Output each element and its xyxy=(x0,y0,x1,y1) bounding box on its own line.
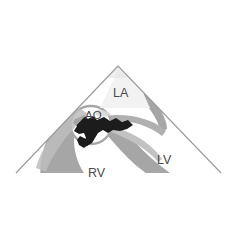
label-la: LA xyxy=(113,86,129,100)
label-lv: LV xyxy=(157,153,172,167)
label-ao: AO xyxy=(85,109,102,121)
label-rv: RV xyxy=(88,166,106,180)
echo-sector-figure: LA AO RV LV xyxy=(0,0,243,226)
sector-background xyxy=(0,0,243,226)
sector-interior xyxy=(0,0,243,226)
posterior-wall-faint xyxy=(120,198,243,226)
echo-sector-canvas: LA AO RV LV xyxy=(0,0,243,226)
